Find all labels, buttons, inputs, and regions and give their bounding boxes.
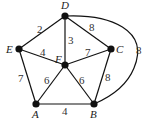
vertex-label-B: B [90,108,97,120]
weight-F-B: 6 [79,74,85,86]
weight-D-C: 8 [89,21,95,33]
vertex-C [107,45,114,52]
edge-D-B-curved [65,16,138,104]
weight-E-A: 7 [18,72,24,84]
edge-F-A [36,65,65,104]
weight-D-F: 3 [68,34,74,46]
weighted-graph-diagram: 2 3 8 8 4 7 7 6 6 8 4 D E F C A B [0,0,149,129]
vertex-label-C: C [116,43,124,55]
weight-A-B: 4 [62,105,68,117]
weight-F-C: 7 [85,46,91,58]
vertex-label-F: F [54,53,62,65]
vertex-D [61,12,68,19]
vertex-label-E: E [5,43,13,55]
vertex-label-A: A [31,108,39,120]
weight-F-A: 6 [44,74,50,86]
vertex-B [90,100,97,107]
vertex-A [32,100,39,107]
weight-D-B: 8 [136,44,142,56]
weight-E-F: 4 [40,46,46,58]
vertex-E [15,45,22,52]
weight-D-E: 2 [37,23,43,35]
vertex-label-D: D [60,0,69,11]
vertex-F [61,61,68,68]
weight-C-B: 8 [105,71,111,83]
